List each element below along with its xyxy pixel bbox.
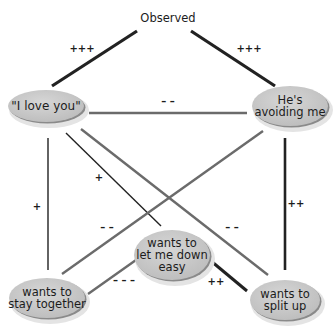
edge-label-letdown-stay: – – – <box>113 275 135 286</box>
node-love: "I love you" <box>8 90 89 128</box>
edge-observed-love <box>52 31 137 86</box>
node-label: "I love you" <box>11 99 80 113</box>
node-label: easy <box>159 260 186 274</box>
edge-observed-avoiding <box>191 31 275 86</box>
node-label: avoiding me <box>254 105 325 119</box>
node-letdown: wants tolet me downeasy <box>134 230 215 286</box>
node-label: stay together <box>8 297 86 311</box>
edge-label-avoiding-stay: – – <box>100 222 113 233</box>
edge-label-avoiding-split: ++ <box>288 198 305 209</box>
relationship-diagram: ++++++– –++– –– –++– – –++ "I love you"H… <box>0 0 336 332</box>
node-avoiding: He'savoiding me <box>252 86 333 132</box>
edge-label-letdown-split: ++ <box>208 276 225 287</box>
edge-label-observed-avoiding: +++ <box>236 43 261 54</box>
edge-label-love-letdown: + <box>95 172 103 183</box>
diagram-title: Observed <box>140 11 195 25</box>
node-split: wants tosplit up <box>250 280 325 326</box>
edge-label-love-stay: + <box>33 201 41 212</box>
edge-label-love-avoiding: – – <box>161 96 174 107</box>
edge-label-love-split: – – <box>225 222 238 233</box>
node-label: split up <box>264 299 306 313</box>
node-stay: wants tostay together <box>8 278 90 324</box>
edge-label-observed-love: +++ <box>69 43 94 54</box>
